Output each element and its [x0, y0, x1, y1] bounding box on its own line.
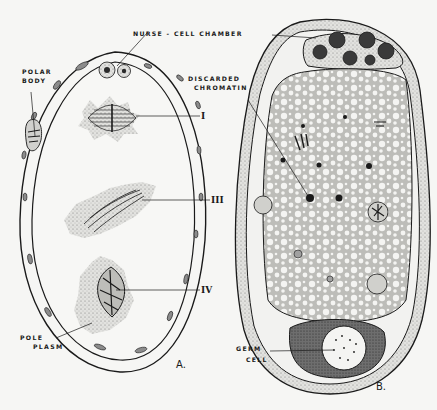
- panel-label-b: B.: [376, 381, 386, 392]
- label-discarded: DISCARDED: [188, 75, 240, 82]
- label-plasm: PLASM: [33, 343, 63, 350]
- panel-b-egg: [235, 19, 430, 394]
- label-pole: POLE: [20, 334, 43, 341]
- label-nurse-cell-chamber: NURSE - CELL CHAMBER: [133, 30, 243, 37]
- label-cell: CELL: [246, 356, 268, 363]
- label-stage-iv: IV: [201, 285, 213, 295]
- label-body: BODY: [22, 77, 46, 84]
- panel-label-a: A.: [176, 359, 186, 370]
- polar-body: [25, 120, 41, 151]
- oocyte-illustration: NURSE - CELL CHAMBER POLAR BODY DISCARDE…: [0, 0, 437, 410]
- panel-a-egg: [20, 32, 210, 372]
- label-germ: GERM: [236, 345, 261, 352]
- label-stage-i: I: [201, 111, 205, 121]
- label-stage-iii: III: [211, 195, 224, 205]
- label-chromatin: CHROMATIN: [194, 84, 248, 91]
- label-polar: POLAR: [22, 68, 52, 75]
